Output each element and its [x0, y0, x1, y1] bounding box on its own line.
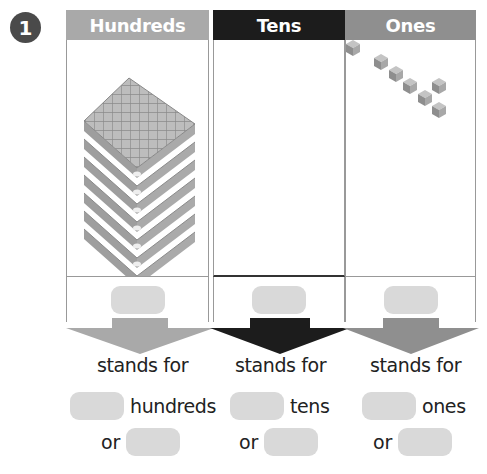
- ones-blocks-area: [345, 40, 476, 277]
- tens-statement-row: tens: [230, 392, 329, 420]
- ones-answer-cell: [345, 277, 476, 322]
- hundreds-blocks-area: [66, 40, 209, 277]
- tens-or-row: or: [239, 428, 318, 456]
- ones-statement-row: ones: [362, 392, 466, 420]
- ones-stands-for-label: stands for: [370, 354, 461, 376]
- tens-count-input[interactable]: [252, 286, 306, 314]
- hundreds-column: Hundreds: [66, 10, 209, 322]
- hundreds-statement-row: hundreds: [70, 392, 216, 420]
- ones-or-row: or: [373, 428, 452, 456]
- tens-unit-label: tens: [290, 395, 329, 417]
- hundreds-answer-cell: [66, 277, 209, 322]
- hundreds-flats-stack-icon: [67, 40, 208, 276]
- hundreds-header: Hundreds: [66, 10, 209, 40]
- hundreds-value-blank[interactable]: [126, 428, 180, 456]
- ones-count-input[interactable]: [384, 286, 438, 314]
- tens-column: Tens: [213, 10, 345, 322]
- tens-or-label: or: [239, 431, 258, 453]
- ones-count-blank[interactable]: [362, 392, 416, 420]
- hundreds-unit-label: hundreds: [130, 395, 216, 417]
- tens-value-blank[interactable]: [264, 428, 318, 456]
- tens-header: Tens: [213, 10, 345, 40]
- question-number-badge: 1: [10, 12, 41, 43]
- tens-count-blank[interactable]: [230, 392, 284, 420]
- ones-or-label: or: [373, 431, 392, 453]
- ones-down-arrow-icon: [343, 318, 479, 354]
- hundreds-or-row: or: [101, 428, 180, 456]
- hundreds-count-blank[interactable]: [70, 392, 124, 420]
- tens-blocks-area: [213, 40, 345, 277]
- ones-header: Ones: [345, 10, 476, 40]
- ones-column: Ones: [345, 10, 476, 322]
- tens-answer-cell: [213, 277, 345, 322]
- hundreds-stands-for-label: stands for: [97, 354, 188, 376]
- hundreds-down-arrow-icon: [66, 318, 214, 354]
- tens-stands-for-label: stands for: [235, 354, 326, 376]
- ones-value-blank[interactable]: [398, 428, 452, 456]
- unit-cubes-icon: [346, 40, 475, 130]
- tens-down-arrow-icon: [210, 318, 350, 354]
- ones-unit-label: ones: [422, 395, 466, 417]
- hundreds-or-label: or: [101, 431, 120, 453]
- hundreds-count-input[interactable]: [111, 286, 165, 314]
